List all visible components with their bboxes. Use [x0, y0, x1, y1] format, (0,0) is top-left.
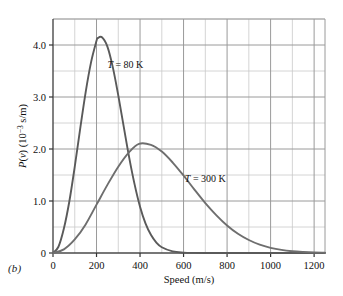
- y-axis-tick-labels: 01.02.03.04.0: [33, 40, 46, 259]
- x-tick-label: 1000: [260, 260, 281, 271]
- figure-panel: 020040060080010001200 01.02.03.04.0 Spee…: [0, 0, 343, 296]
- y-tick-label: 2.0: [33, 144, 46, 155]
- x-tick-label: 600: [176, 260, 192, 271]
- y-title-unit-close: s/m): [17, 104, 29, 126]
- x-tick-label: 200: [89, 260, 105, 271]
- svg-text:P(v) (10−3 s/m): P(v) (10−3 s/m): [16, 104, 30, 169]
- x-tick-label: 800: [219, 260, 235, 271]
- y-tick-label: 0: [41, 248, 46, 259]
- y-title-unit-open: (10: [17, 133, 29, 150]
- x-axis-tick-labels: 020040060080010001200: [50, 260, 324, 271]
- y-tick-label: 3.0: [33, 92, 46, 103]
- y-tick-label: 1.0: [33, 196, 46, 207]
- y-axis-title: P(v) (10−3 s/m): [16, 104, 30, 169]
- x-axis-title: Speed (m/s): [164, 274, 215, 286]
- speed-distribution-chart: 020040060080010001200 01.02.03.04.0 Spee…: [0, 0, 343, 296]
- y-tick-label: 4.0: [33, 40, 46, 51]
- y-title-exponent: −3: [16, 125, 25, 133]
- panel-label: (b): [8, 262, 21, 274]
- x-tick-label: 1200: [304, 260, 325, 271]
- x-tick-label: 0: [50, 260, 55, 271]
- curve-annotation-1: T = 300 K: [185, 173, 227, 184]
- x-tick-label: 400: [132, 260, 148, 271]
- curve-annotation-0: T = 80 K: [107, 59, 144, 70]
